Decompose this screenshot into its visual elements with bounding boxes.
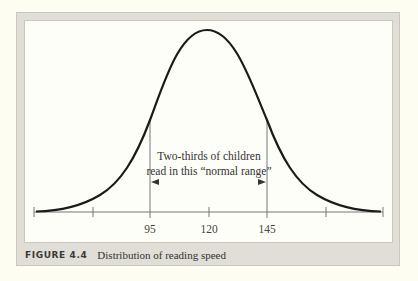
normal-distribution-chart: Two-thirds of children read in this “nor… <box>0 0 418 281</box>
figure-caption: FIGURE 4.4 Distribution of reading speed <box>25 247 226 263</box>
annotation-line-2: read in this “normal range” <box>146 165 271 178</box>
tick-label-145: 145 <box>258 223 276 235</box>
annotation-line-1: Two-thirds of children <box>157 150 261 162</box>
tick-label-120: 120 <box>200 223 218 235</box>
figure-label: FIGURE 4.4 <box>25 250 87 260</box>
figure-caption-text: Distribution of reading speed <box>97 249 226 261</box>
bell-curve <box>36 30 381 212</box>
tick-label-95: 95 <box>144 223 156 235</box>
